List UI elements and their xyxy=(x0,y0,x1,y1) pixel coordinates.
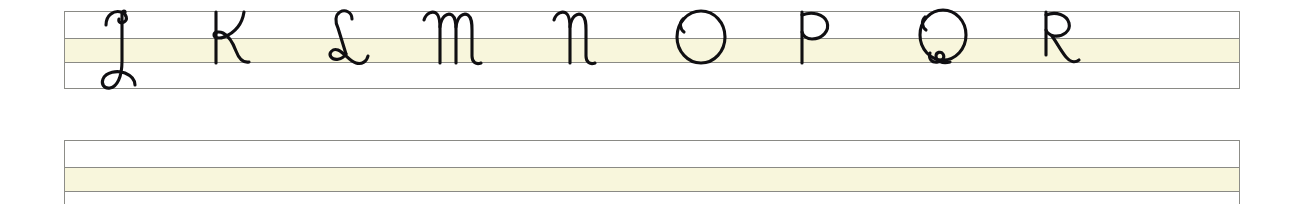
rule-ascender-line xyxy=(64,11,1240,12)
stave-row-2 xyxy=(64,140,1240,204)
handwriting-worksheet xyxy=(0,0,1306,204)
rule-midline xyxy=(64,167,1240,168)
xheight-band xyxy=(64,38,1240,62)
stave-left-border xyxy=(64,140,65,204)
stave-row-1 xyxy=(64,11,1240,89)
xheight-band xyxy=(64,167,1240,191)
rule-ascender-line xyxy=(64,140,1240,141)
stave-left-border xyxy=(64,11,65,89)
stave-right-border xyxy=(1239,140,1240,204)
rule-descender-line xyxy=(64,88,1240,89)
rule-baseline xyxy=(64,62,1240,63)
rule-baseline xyxy=(64,191,1240,192)
stave-right-border xyxy=(1239,11,1240,89)
rule-midline xyxy=(64,38,1240,39)
